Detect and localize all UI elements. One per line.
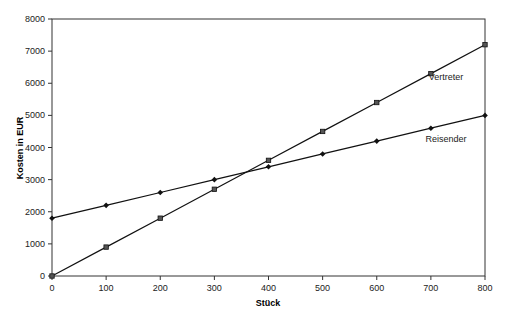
diamond-marker (157, 190, 163, 196)
series-layer (49, 43, 488, 279)
series-label-reisender: Reisender (425, 134, 466, 144)
diamond-marker (49, 215, 55, 221)
x-tick-label: 500 (315, 283, 330, 293)
y-tick-label: 7000 (25, 46, 45, 56)
diamond-marker (320, 151, 326, 157)
square-marker (158, 216, 162, 220)
x-tick-label: 700 (423, 283, 438, 293)
y-tick-label: 6000 (25, 78, 45, 88)
square-marker (375, 100, 379, 104)
diamond-marker (212, 177, 218, 183)
series-vertreter (50, 43, 487, 279)
y-tick-label: 1000 (25, 239, 45, 249)
y-tick-label: 2000 (25, 207, 45, 217)
y-tick-label: 3000 (25, 175, 45, 185)
y-axis: 010002000300040005000600070008000 (25, 14, 52, 281)
x-axis-title: Stück (256, 298, 282, 308)
x-tick-label: 0 (49, 283, 54, 293)
square-marker (50, 274, 54, 278)
y-tick-label: 5000 (25, 110, 45, 120)
diamond-marker (103, 203, 109, 209)
y-axis-title: Kosten in EUR (15, 116, 25, 179)
diamond-marker (374, 138, 380, 144)
y-tick-label: 0 (40, 271, 45, 281)
diamond-marker (266, 164, 272, 170)
square-marker (104, 245, 108, 249)
square-marker (320, 129, 324, 133)
y-tick-label: 4000 (25, 143, 45, 153)
x-axis: 0100200300400500600700800 (49, 276, 492, 293)
square-marker (212, 187, 216, 191)
series-reisender (49, 113, 488, 221)
plot-border (52, 19, 485, 276)
diamond-marker (482, 113, 488, 119)
diamond-marker (428, 125, 434, 131)
square-marker (266, 158, 270, 162)
x-tick-label: 600 (369, 283, 384, 293)
plot-area (52, 19, 485, 276)
x-tick-label: 800 (477, 283, 492, 293)
x-tick-label: 300 (207, 283, 222, 293)
x-tick-label: 100 (99, 283, 114, 293)
series-label-vertreter: Vertreter (429, 72, 464, 82)
x-tick-label: 200 (153, 283, 168, 293)
y-tick-label: 8000 (25, 14, 45, 24)
line-chart: 010002000300040005000600070008000 010020… (0, 0, 505, 321)
square-marker (483, 43, 487, 47)
x-tick-label: 400 (261, 283, 276, 293)
